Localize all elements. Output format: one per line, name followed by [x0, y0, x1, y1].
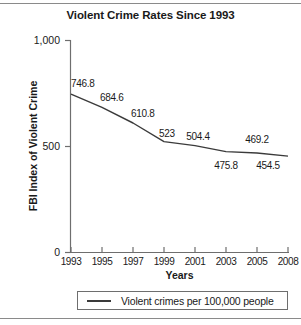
data-label-1993: 746.8: [71, 78, 117, 89]
legend-label: Violent crimes per 100,000 people: [121, 295, 274, 307]
figure-container: Violent Crime Rates Since 1993 FBI Index: [0, 0, 301, 325]
data-label-1995: 684.6: [100, 92, 146, 103]
legend-line-swatch: [87, 300, 111, 302]
data-label-2003: 475.8: [206, 160, 246, 171]
data-series-line: [71, 94, 288, 156]
data-label-2001: 504.4: [178, 131, 218, 142]
data-label-2008: 454.5: [248, 160, 288, 171]
data-label-2005: 469.2: [237, 134, 277, 145]
data-label-1997: 610.8: [131, 108, 177, 119]
bottom-divider: [0, 318, 301, 319]
x-axis-title: Years: [70, 269, 289, 281]
plot-area: FBI Index of Violent Crime 1,000 500 0 1…: [0, 0, 301, 290]
chart-legend: Violent crimes per 100,000 people: [77, 291, 288, 310]
y-tick-label-500: 500: [16, 140, 60, 152]
x-tick-label-2008: 2008: [270, 256, 301, 267]
y-tick-label-1000: 1,000: [16, 34, 60, 46]
